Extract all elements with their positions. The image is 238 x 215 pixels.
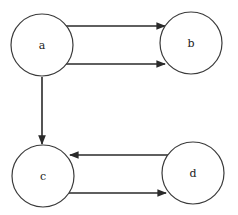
node-c: c — [12, 145, 74, 207]
node-b-label: b — [187, 37, 194, 50]
node-b: b — [160, 12, 222, 74]
node-a: a — [11, 14, 73, 76]
node-d-label: d — [189, 167, 196, 180]
node-c-label: c — [40, 170, 46, 183]
node-a-label: a — [39, 39, 46, 52]
graph-diagram: a b c d — [0, 0, 238, 215]
node-d: d — [162, 142, 224, 204]
